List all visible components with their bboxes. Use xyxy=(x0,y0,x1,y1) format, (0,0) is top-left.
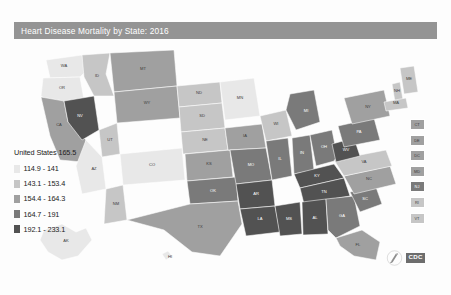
inset-state-vt[interactable]: VT xyxy=(410,213,425,224)
legend-swatch xyxy=(14,225,20,233)
legend-label: 114.9 - 141 xyxy=(24,164,59,173)
legend-label: 154.4 - 164.3 xyxy=(24,194,66,203)
cdc-hhs-mark-icon xyxy=(386,250,403,266)
state-la[interactable] xyxy=(240,206,280,236)
cdc-wordmark: CDC xyxy=(406,253,425,264)
legend-swatch xyxy=(14,195,20,203)
state-ar[interactable] xyxy=(236,180,275,209)
state-ia[interactable] xyxy=(225,124,266,150)
inset-state-md[interactable]: MD xyxy=(410,166,425,177)
inset-state-ri[interactable]: RI xyxy=(410,197,425,208)
state-hi[interactable] xyxy=(162,251,172,260)
inset-state-dc[interactable]: DC xyxy=(410,150,425,161)
page-title: Heart Disease Mortality by State: 2016 xyxy=(14,26,169,36)
state-nd[interactable] xyxy=(177,82,222,107)
state-mt[interactable] xyxy=(110,50,177,92)
small-state-insets: CTDEDCMDNJRIVT xyxy=(406,119,428,228)
state-id[interactable] xyxy=(82,53,114,96)
inset-state-de[interactable]: DE xyxy=(410,135,425,146)
inset-state-ct[interactable]: CT xyxy=(410,119,425,130)
state-sd[interactable] xyxy=(179,103,225,132)
state-ok[interactable] xyxy=(187,177,238,204)
map-card: Heart Disease Mortality by State: 2016 W… xyxy=(0,0,451,295)
state-ks[interactable] xyxy=(185,150,233,181)
chart-title-bar: Heart Disease Mortality by State: 2016 xyxy=(14,22,437,39)
legend-swatch xyxy=(14,180,20,188)
legend-swatch xyxy=(14,165,20,173)
state-mn[interactable] xyxy=(220,78,260,120)
state-wi[interactable] xyxy=(260,110,292,141)
state-ms[interactable] xyxy=(275,202,302,236)
inset-state-nj[interactable]: NJ xyxy=(410,181,425,192)
cdc-wordmark-text: CDC xyxy=(409,254,423,260)
legend: United States 165.5 114.9 - 141143.1 - 1… xyxy=(14,148,110,240)
state-wy[interactable] xyxy=(114,86,180,123)
state-wa[interactable] xyxy=(46,55,86,78)
legend-label: 192.1 - 233.1 xyxy=(24,225,66,234)
legend-label: 143.1 - 153.4 xyxy=(24,179,66,188)
legend-row[interactable]: 143.1 - 153.4 xyxy=(14,179,110,188)
legend-national-value: United States 165.5 xyxy=(14,148,110,157)
legend-row[interactable]: 114.9 - 141 xyxy=(14,164,110,173)
state-ne[interactable] xyxy=(181,128,228,154)
state-mi[interactable] xyxy=(286,90,320,130)
state-in[interactable] xyxy=(292,135,314,174)
state-ma[interactable] xyxy=(384,98,408,111)
legend-swatch xyxy=(14,210,20,218)
legend-row[interactable]: 164.7 - 191 xyxy=(14,210,110,219)
state-me[interactable] xyxy=(400,66,418,94)
legend-row[interactable]: 154.4 - 164.3 xyxy=(14,194,110,203)
state-tx[interactable] xyxy=(127,201,242,256)
cdc-logo: CDC xyxy=(386,250,425,266)
state-mo[interactable] xyxy=(230,148,272,184)
state-co[interactable] xyxy=(120,148,185,185)
legend-rows: 114.9 - 141143.1 - 153.4154.4 - 164.3164… xyxy=(14,164,110,234)
legend-row[interactable]: 192.1 - 233.1 xyxy=(14,225,110,234)
state-ny[interactable] xyxy=(344,90,390,124)
state-al[interactable] xyxy=(302,199,328,235)
legend-label: 164.7 - 191 xyxy=(24,210,60,219)
